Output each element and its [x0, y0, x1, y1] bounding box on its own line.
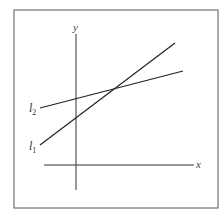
- figure-frame: [14, 10, 218, 208]
- line-l1: [40, 43, 175, 145]
- y-axis-label: y: [72, 21, 78, 33]
- line-l2-subscript: 2: [32, 108, 36, 117]
- diagram-canvas: x y l2 l1: [0, 0, 223, 217]
- line-l1-subscript: 1: [32, 146, 36, 155]
- line-l2: [40, 71, 183, 108]
- x-axis-label: x: [195, 158, 201, 170]
- line-l1-label: l1: [29, 139, 36, 155]
- line-l2-label: l2: [29, 101, 36, 117]
